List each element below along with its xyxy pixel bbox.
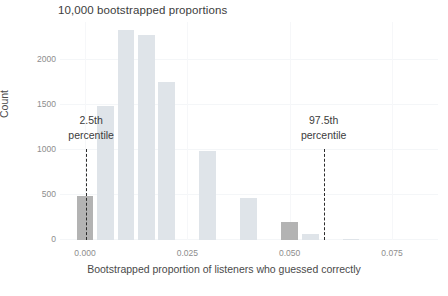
gridline-vertical	[392, 22, 393, 240]
x-axis-tick-label: 0.025	[157, 248, 217, 258]
histogram-bar	[302, 234, 319, 240]
x-axis-tick-group: 0.0000.0250.0500.075	[0, 248, 448, 264]
y-axis-tick-label: 1500	[10, 99, 56, 109]
y-axis-tick-label: 500	[10, 189, 56, 199]
annotation-label-line1: 2.5th	[36, 113, 146, 128]
y-axis-tick-label: 1000	[10, 144, 56, 154]
annotation-line-upper-percentile	[324, 149, 325, 240]
histogram-bar	[199, 151, 216, 240]
x-axis-tick-label: 0.075	[362, 248, 422, 258]
y-axis-tick-label: 0	[10, 234, 56, 244]
x-axis-tick-label: 0.050	[260, 248, 320, 258]
annotation-line-lower-percentile	[86, 149, 87, 240]
annotation-label-line2: percentile	[269, 128, 379, 143]
gridline-vertical	[187, 22, 188, 240]
y-axis-label: Count	[0, 90, 10, 118]
histogram-bar	[240, 198, 257, 240]
x-axis-label: Bootstrapped proportion of listeners who…	[0, 263, 448, 275]
histogram-bar	[158, 82, 175, 240]
histogram-bar	[281, 222, 298, 240]
x-axis-tick-label: 0.000	[55, 248, 115, 258]
page-title: 10,000 bootstrapped proportions	[58, 4, 227, 16]
histogram-bar	[343, 239, 360, 241]
histogram-bar	[77, 196, 94, 240]
annotation-label-lower-percentile: 2.5thpercentile	[36, 113, 146, 143]
annotation-label-line1: 97.5th	[269, 113, 379, 128]
bootstrap-histogram-figure: 10,000 bootstrapped proportions 05001000…	[0, 0, 448, 296]
annotation-label-upper-percentile: 97.5thpercentile	[269, 113, 379, 143]
y-axis-tick-label: 2000	[10, 54, 56, 64]
annotation-label-line2: percentile	[36, 128, 146, 143]
